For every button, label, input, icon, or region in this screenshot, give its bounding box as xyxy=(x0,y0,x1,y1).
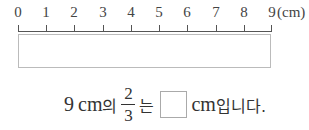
tick-mark xyxy=(131,25,132,31)
whole-unit: cm xyxy=(78,93,102,116)
tick-mark xyxy=(46,25,47,31)
ruler-axis-line xyxy=(18,31,272,32)
length-bar-box xyxy=(18,34,271,68)
tick-label-7: 7 xyxy=(206,4,226,21)
tick-mark xyxy=(271,25,272,31)
tick-label-0: 0 xyxy=(8,4,28,21)
unit-label: (cm) xyxy=(277,4,305,21)
tick-mark xyxy=(244,25,245,31)
tick-mark xyxy=(18,25,19,31)
tick-mark xyxy=(74,25,75,31)
tick-mark xyxy=(103,25,104,31)
question-sentence: 9 cm 의 2 3 는 cm 입니다. xyxy=(64,82,266,127)
sentence-ending: 입니다. xyxy=(216,93,266,117)
tick-mark xyxy=(216,25,217,31)
fraction-numerator: 2 xyxy=(122,85,135,104)
tick-label-4: 4 xyxy=(121,4,141,21)
answer-box[interactable] xyxy=(160,91,187,118)
ruler: 0 1 2 3 4 5 6 7 8 9 (cm) xyxy=(0,0,309,75)
tick-label-2: 2 xyxy=(64,4,84,21)
answer-unit: cm xyxy=(191,93,215,116)
fraction-denominator: 3 xyxy=(124,105,133,124)
tick-label-8: 8 xyxy=(234,4,254,21)
particle-of: 의 xyxy=(102,93,117,117)
tick-label-1: 1 xyxy=(36,4,56,21)
tick-mark xyxy=(187,25,188,31)
particle-topic: 는 xyxy=(139,93,154,117)
tick-label-6: 6 xyxy=(177,4,197,21)
tick-label-5: 5 xyxy=(149,4,169,21)
fraction: 2 3 xyxy=(121,85,135,124)
tick-mark xyxy=(159,25,160,31)
whole-value: 9 xyxy=(64,93,74,116)
tick-label-3: 3 xyxy=(93,4,113,21)
